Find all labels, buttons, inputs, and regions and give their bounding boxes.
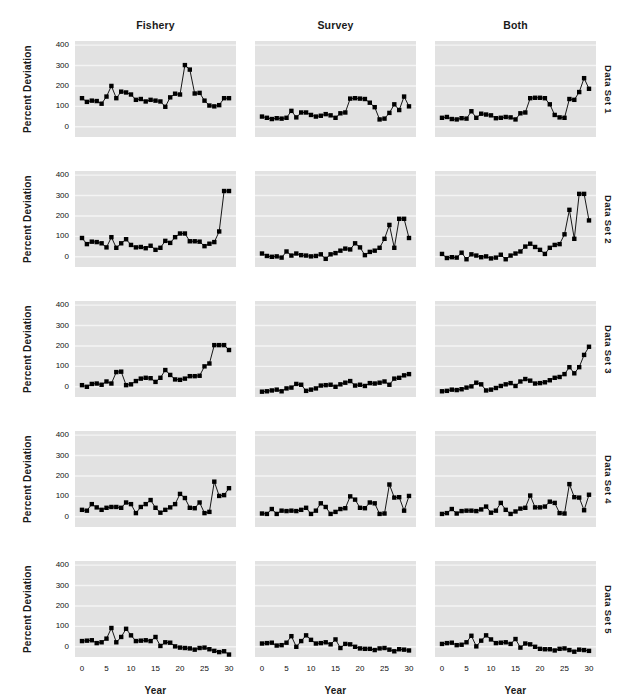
data-point	[304, 506, 308, 510]
data-point	[109, 626, 113, 630]
y-tick-0-row-4: 0	[41, 513, 69, 521]
data-point	[289, 109, 293, 113]
data-point	[148, 498, 152, 502]
data-point	[363, 97, 367, 101]
data-point	[513, 251, 517, 255]
data-point	[275, 643, 279, 647]
data-point	[333, 385, 337, 389]
plot-area	[435, 431, 596, 527]
data-point	[178, 92, 182, 96]
data-point	[528, 642, 532, 646]
data-point	[562, 511, 566, 515]
data-point	[528, 242, 532, 246]
data-point	[158, 376, 162, 380]
y-tick-300-row-5: 300	[41, 582, 69, 590]
data-point	[328, 642, 332, 646]
x-axis-label-col-1: Year	[75, 685, 236, 696]
panel-fishery-data-set-5	[75, 561, 236, 657]
data-point	[397, 376, 401, 380]
data-point	[557, 511, 561, 515]
series-line	[82, 191, 229, 250]
data-point	[368, 100, 372, 104]
panel-survey-data-set-2	[255, 171, 416, 267]
data-point	[469, 508, 473, 512]
panel-survey-data-set-5	[255, 561, 416, 657]
data-point	[557, 647, 561, 651]
data-point	[134, 98, 138, 102]
data-point	[377, 117, 381, 121]
data-point	[543, 504, 547, 508]
data-point	[489, 637, 493, 641]
data-point	[553, 113, 557, 117]
data-point	[499, 501, 503, 505]
data-point	[119, 89, 123, 93]
data-point	[299, 508, 303, 512]
data-point	[392, 102, 396, 106]
data-point	[104, 379, 108, 383]
y-tick-400-row-1: 400	[41, 41, 69, 49]
data-point	[450, 255, 454, 259]
row-title-data-set-4: Data Set 4	[603, 431, 614, 527]
data-point	[207, 103, 211, 107]
data-point	[445, 511, 449, 515]
data-point	[479, 382, 483, 386]
data-point	[139, 505, 143, 509]
data-point	[222, 96, 226, 100]
x-tick-10-col-1: 10	[119, 665, 143, 673]
column-title-fishery: Fishery	[75, 19, 236, 31]
data-point	[158, 644, 162, 648]
panel-fishery-data-set-1	[75, 41, 236, 137]
data-point	[134, 511, 138, 515]
data-point	[279, 255, 283, 259]
data-point	[504, 257, 508, 261]
data-point	[387, 223, 391, 227]
data-point	[523, 377, 527, 381]
data-point	[567, 97, 571, 101]
data-point	[402, 647, 406, 651]
data-point	[397, 495, 401, 499]
plot-area	[255, 171, 416, 267]
y-tick-300-row-2: 300	[41, 192, 69, 200]
data-point	[397, 217, 401, 221]
data-point	[168, 373, 172, 377]
data-point	[294, 251, 298, 255]
data-point	[440, 642, 444, 646]
data-point	[459, 387, 463, 391]
data-point	[207, 361, 211, 365]
data-point	[368, 250, 372, 254]
data-point	[309, 254, 313, 258]
data-point	[494, 641, 498, 645]
data-point	[163, 239, 167, 243]
data-point	[227, 348, 231, 352]
plot-area	[75, 41, 236, 137]
data-point	[114, 246, 118, 250]
data-point	[338, 646, 342, 650]
plot-area	[435, 301, 596, 397]
data-point	[377, 512, 381, 516]
x-tick-5-col-2: 5	[275, 665, 299, 673]
data-point	[85, 385, 89, 389]
data-point	[572, 649, 576, 653]
data-point	[124, 90, 128, 94]
data-point	[353, 96, 357, 100]
data-point	[557, 115, 561, 119]
data-point	[260, 251, 264, 255]
data-point	[572, 495, 576, 499]
y-tick-100-row-5: 100	[41, 622, 69, 630]
data-point	[217, 494, 221, 498]
data-point	[158, 246, 162, 250]
data-point	[212, 479, 216, 483]
data-point	[484, 388, 488, 392]
data-point	[489, 256, 493, 260]
data-point	[567, 482, 571, 486]
plot-area	[75, 431, 236, 527]
data-point	[358, 96, 362, 100]
data-point	[328, 512, 332, 516]
data-point	[163, 105, 167, 109]
data-point	[538, 248, 542, 252]
data-point	[284, 641, 288, 645]
data-point	[207, 647, 211, 651]
data-point	[173, 92, 177, 96]
plot-area	[255, 431, 416, 527]
data-point	[227, 96, 231, 100]
